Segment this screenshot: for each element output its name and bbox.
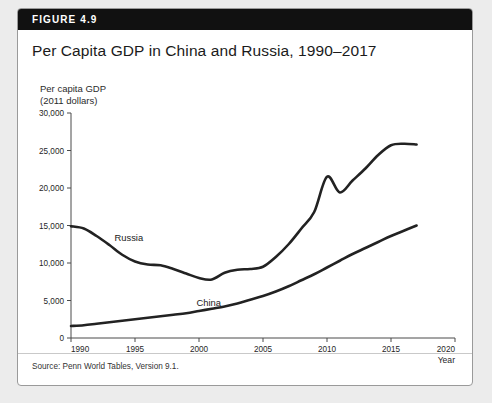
chart-axes bbox=[71, 113, 455, 338]
series-label-russia: Russia bbox=[115, 232, 144, 243]
series-line-russia bbox=[71, 144, 417, 280]
y-axis-tick-label: 30,000 bbox=[39, 109, 64, 118]
y-axis-tick-label: 5,000 bbox=[44, 297, 65, 306]
page-title: Per Capita GDP in China and Russia, 1990… bbox=[32, 42, 472, 60]
source-divider bbox=[18, 353, 472, 354]
y-axis-tick-label: 25,000 bbox=[39, 147, 64, 156]
y-axis-caption: Per capita GDP (2011 dollars) bbox=[40, 83, 106, 106]
y-axis-tick-label: 15,000 bbox=[39, 222, 64, 231]
series-line-china bbox=[71, 226, 417, 327]
y-axis-tick-label: 10,000 bbox=[39, 259, 64, 268]
figure-badge: FIGURE 4.9 bbox=[18, 9, 472, 30]
x-axis-label: Year bbox=[438, 355, 456, 365]
y-axis-tick-label: 20,000 bbox=[39, 184, 64, 193]
series-label-china: China bbox=[196, 297, 221, 308]
figure-badge-label: FIGURE 4.9 bbox=[32, 14, 97, 25]
y-axis-tick-label: 0 bbox=[59, 334, 64, 343]
line-chart: 05,00010,00015,00020,00025,00030,0001990… bbox=[18, 9, 473, 386]
figure-card: FIGURE 4.9 Per Capita GDP in China and R… bbox=[17, 8, 473, 386]
source-note: Source: Penn World Tables, Version 9.1. bbox=[32, 362, 179, 371]
